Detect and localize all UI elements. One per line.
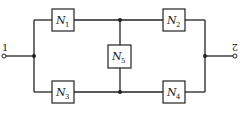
- terminal-1-label: 1: [2, 42, 8, 53]
- block-n2: N 2: [163, 9, 185, 31]
- terminal-2-circle: [233, 54, 237, 58]
- block-n3-sub: 3: [65, 93, 69, 101]
- block-n2-sub: 2: [176, 21, 180, 29]
- terminal-1-circle: [2, 54, 6, 58]
- terminal-2-label: 2: [232, 42, 238, 53]
- junction-middle-bottom: [118, 90, 122, 94]
- block-n5-sub: 5: [121, 57, 125, 65]
- block-n5: N 5: [108, 45, 131, 68]
- block-n1-sub: 1: [65, 21, 69, 29]
- block-n4-sub: 4: [176, 93, 181, 101]
- block-n4: N 4: [163, 81, 185, 103]
- network-diagram: 1 2 N 1 N 2 N 3 N 4 N 5: [0, 0, 240, 113]
- junction-middle-top: [118, 18, 122, 22]
- junction-left: [32, 54, 36, 58]
- block-n3: N 3: [52, 81, 74, 103]
- block-n1: N 1: [52, 9, 74, 31]
- terminal-2: 2: [232, 42, 238, 58]
- junction-right: [203, 54, 207, 58]
